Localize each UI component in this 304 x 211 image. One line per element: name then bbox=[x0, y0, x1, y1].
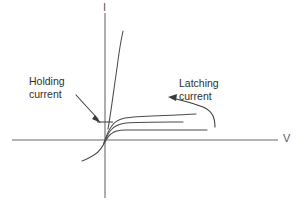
holding-current-arrowhead bbox=[92, 115, 101, 123]
holding-current-annotation: Holding current bbox=[29, 75, 65, 100]
iv-characteristic-figure: I V Holding current Latching current bbox=[0, 0, 304, 211]
latching-current-annotation: Latching current bbox=[179, 77, 219, 102]
holding-current-annotation-line1: Holding bbox=[29, 75, 65, 88]
holding-current-leader-line bbox=[76, 95, 98, 119]
latching-current-arrowhead bbox=[168, 94, 177, 101]
voltage-axis-label: V bbox=[283, 133, 290, 144]
latching-current-annotation-line1: Latching bbox=[179, 77, 219, 90]
latching-current-leader-line bbox=[172, 98, 215, 127]
iv-characteristic-svg bbox=[0, 0, 304, 211]
reverse-characteristic-curve bbox=[82, 139, 106, 161]
on-state-curve-upper bbox=[104, 114, 196, 143]
holding-current-annotation-line2: current bbox=[29, 88, 65, 101]
forward-breakover-curve bbox=[108, 31, 123, 129]
on-state-curve-lower bbox=[104, 130, 207, 143]
latching-current-annotation-line2: current bbox=[179, 90, 219, 103]
current-axis-label: I bbox=[103, 2, 106, 13]
